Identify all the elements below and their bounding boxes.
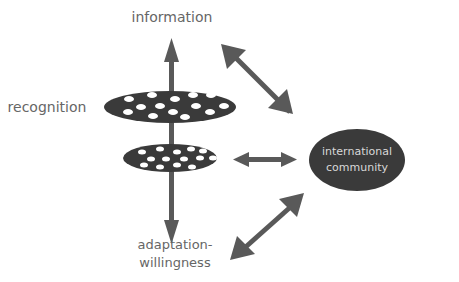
adaptation-willingness-label-line1: adaptation- xyxy=(120,236,230,254)
vertical-double-arrow xyxy=(164,38,179,244)
international-community-label-line2: community xyxy=(309,160,405,175)
recognition-disc-lower xyxy=(123,144,217,172)
recognition-disc-upper xyxy=(104,91,236,123)
recognition-label: recognition xyxy=(2,98,92,116)
international-community-label-line1: international xyxy=(309,144,405,159)
adaptation-willingness-label-line2: willingness xyxy=(120,254,230,272)
lower-diagonal-double-arrow xyxy=(230,193,304,260)
horizontal-double-arrow xyxy=(233,152,297,167)
information-label: information xyxy=(128,8,216,26)
